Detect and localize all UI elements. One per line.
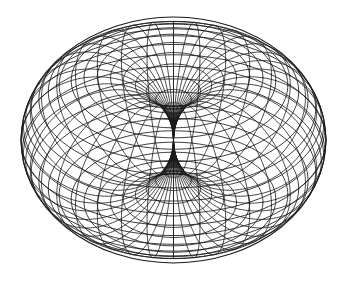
horn-torus-wireframe-plot bbox=[0, 0, 346, 286]
figure-root bbox=[0, 0, 346, 286]
